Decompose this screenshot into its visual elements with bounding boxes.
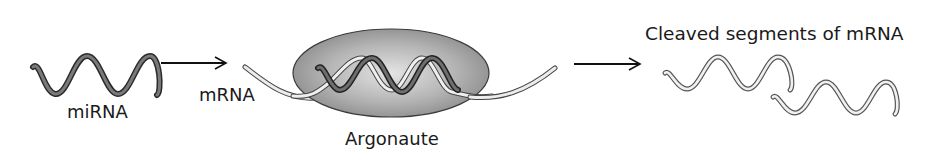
mirna-label: miRNA bbox=[67, 101, 129, 122]
argonaute-label: Argonaute bbox=[345, 128, 439, 149]
cleaved-label: Cleaved segments of mRNA bbox=[645, 23, 904, 44]
mrna-label: mRNA bbox=[199, 84, 256, 105]
diagram-canvas: miRNA mRNA Argonaute Cleaved segments of… bbox=[0, 0, 925, 159]
mirna-strand bbox=[33, 56, 160, 95]
cleaved-segment-1 bbox=[665, 57, 792, 90]
